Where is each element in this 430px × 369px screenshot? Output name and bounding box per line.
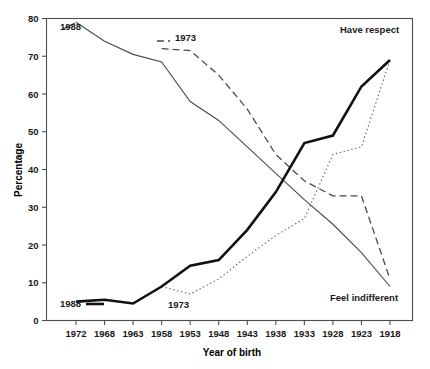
x-axis-title: Year of birth xyxy=(203,347,261,358)
annotation-have-respect: Have respect xyxy=(340,24,400,35)
y-tick-label-20: 20 xyxy=(28,240,39,251)
y-axis-title: Percentage xyxy=(13,143,24,197)
y-tick-label-0: 0 xyxy=(33,315,38,326)
x-tick-label-1938: 1938 xyxy=(265,328,286,339)
series-feel-indifferent-1973 xyxy=(162,49,390,279)
plot-frame xyxy=(47,19,413,321)
y-tick-label-70: 70 xyxy=(28,51,39,62)
x-tick-label-1933: 1933 xyxy=(294,328,315,339)
annotation-1988-top: 1988 xyxy=(60,21,81,32)
line-chart: 80706050403020100 1972196819631958195319… xyxy=(0,0,430,369)
x-tick-label-1918: 1918 xyxy=(379,328,400,339)
y-axis-tick-labels: 80706050403020100 xyxy=(28,13,39,326)
x-tick-label-1958: 1958 xyxy=(151,328,172,339)
x-axis-ticks xyxy=(76,321,390,326)
x-tick-label-1943: 1943 xyxy=(237,328,258,339)
y-axis-ticks xyxy=(42,19,47,321)
x-tick-label-1948: 1948 xyxy=(208,328,229,339)
y-tick-label-50: 50 xyxy=(28,126,39,137)
y-tick-label-80: 80 xyxy=(28,13,39,24)
x-tick-label-1972: 1972 xyxy=(65,328,86,339)
y-tick-label-40: 40 xyxy=(28,164,39,175)
annotation-feel-indifferent: Feel indifferent xyxy=(330,292,399,303)
chart-container: 80706050403020100 1972196819631958195319… xyxy=(0,0,430,369)
y-tick-label-10: 10 xyxy=(28,277,39,288)
x-tick-label-1928: 1928 xyxy=(322,328,343,339)
x-axis-tick-labels: 1972196819631958195319481943193819331928… xyxy=(65,328,400,339)
annotation-1988-bottom: 1988 xyxy=(60,298,81,309)
annotation-1973-bottom: 1973 xyxy=(168,299,189,310)
x-tick-label-1963: 1963 xyxy=(123,328,144,339)
x-tick-label-1953: 1953 xyxy=(180,328,201,339)
y-tick-label-60: 60 xyxy=(28,89,39,100)
annotation-1973-top: 1973 xyxy=(175,32,196,43)
x-tick-label-1968: 1968 xyxy=(94,328,115,339)
y-tick-label-30: 30 xyxy=(28,202,39,213)
x-tick-label-1923: 1923 xyxy=(351,328,372,339)
